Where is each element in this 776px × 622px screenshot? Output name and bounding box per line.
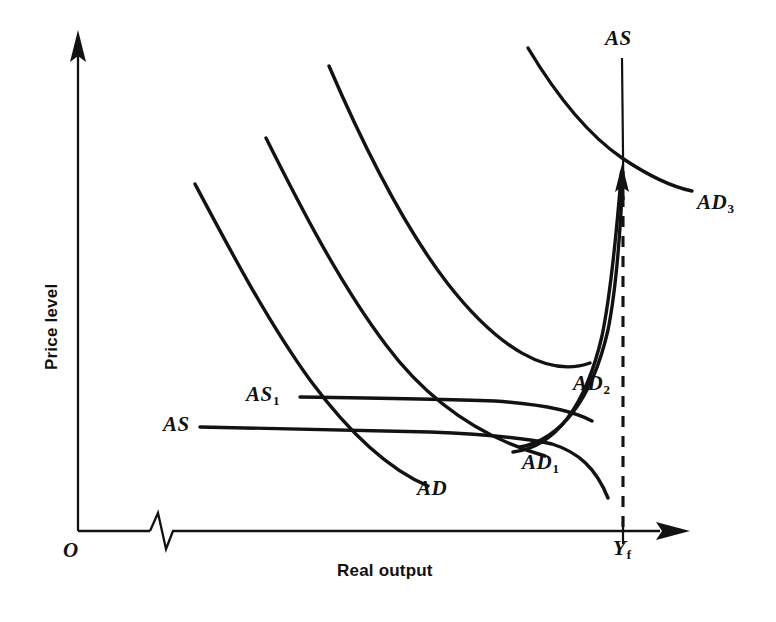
yf-axis-label: Yf [613, 536, 631, 561]
ad2-subscript: 2 [603, 382, 610, 397]
ad1-label: AD1 [522, 450, 559, 475]
as1-shifted-curve-flat [300, 397, 592, 421]
ad1-subscript: 1 [552, 461, 559, 476]
x-axis-title: Real output [337, 561, 433, 581]
axes-group [70, 30, 690, 549]
as1-label: AS1 [246, 382, 279, 407]
x-axis-arrowhead [656, 522, 690, 540]
ad1-curve [266, 138, 545, 456]
y-axis-title: Price level [42, 284, 62, 370]
ad1-base: AD [522, 450, 552, 474]
yf-subscript: f [627, 547, 632, 562]
ad2-base: AD [573, 371, 603, 395]
ad3-base: AD [697, 190, 727, 214]
x-axis-break-and-right-segment [150, 513, 660, 549]
as-vertical-label: AS [605, 26, 632, 51]
yf-base: Y [613, 536, 626, 560]
as1-base: AS [246, 382, 273, 406]
diagram-canvas [0, 0, 776, 622]
ad-as-diagram-figure: Price level Real output O Yf AS AS AS1 A… [0, 0, 776, 622]
ad3-curve [528, 48, 692, 191]
as-base-label: AS [163, 412, 190, 437]
ad3-subscript: 3 [727, 201, 734, 216]
as1-subscript: 1 [273, 393, 280, 408]
ad-base-label: AD [417, 476, 447, 501]
origin-label: O [63, 538, 79, 563]
ad3-label: AD3 [697, 190, 734, 215]
ad2-label: AD2 [573, 371, 610, 396]
